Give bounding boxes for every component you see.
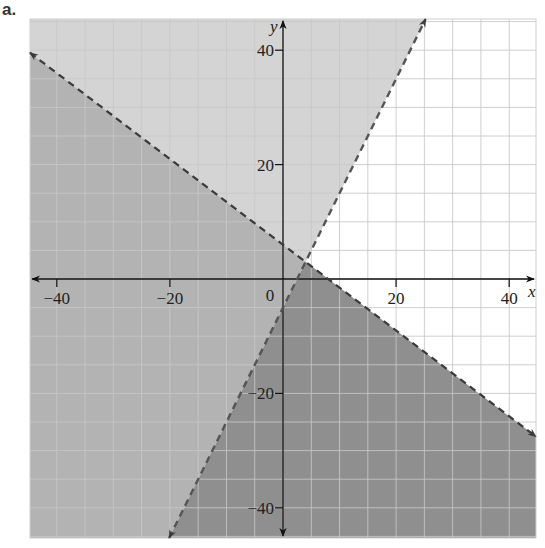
origin-label: 0 (266, 286, 275, 305)
y-tick-label: 20 (257, 156, 274, 175)
y-tick-label: −20 (247, 384, 274, 403)
y-tick-label: −40 (247, 499, 274, 518)
inequality-graph: −40−2020404020−20−400xy (0, 0, 545, 548)
y-axis-label: y (268, 17, 278, 36)
x-axis-label: x (527, 282, 536, 301)
x-tick-label: −20 (157, 289, 184, 308)
x-tick-label: −40 (44, 289, 71, 308)
y-tick-label: 40 (257, 41, 274, 60)
x-tick-label: 20 (388, 289, 405, 308)
x-tick-label: 40 (501, 289, 518, 308)
